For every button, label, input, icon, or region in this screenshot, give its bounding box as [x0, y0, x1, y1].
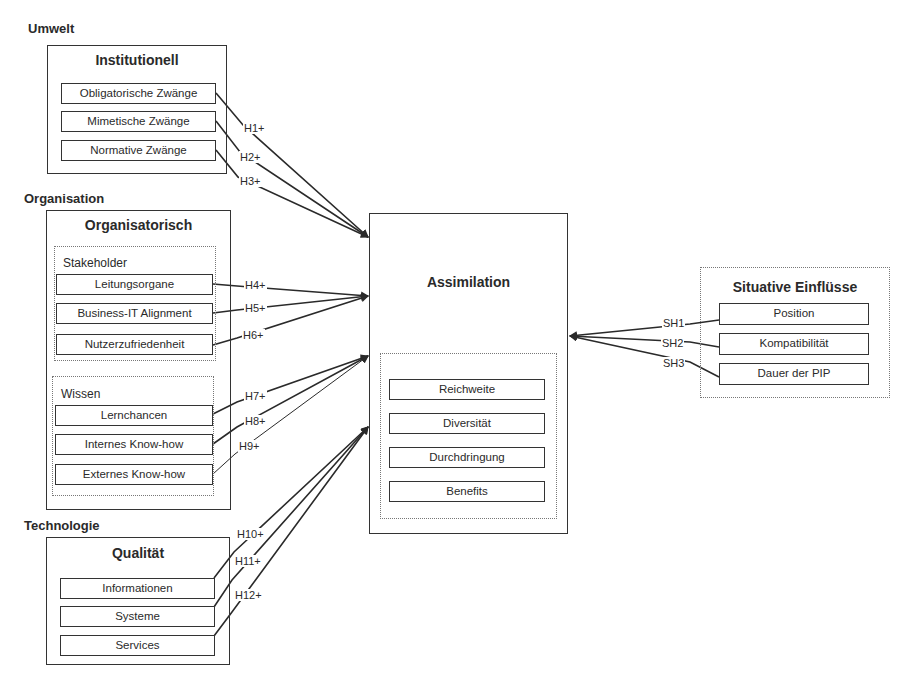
assimilation-title: Assimilation: [370, 274, 567, 290]
item-mimetische-zwaenge: Mimetische Zwänge: [61, 111, 216, 132]
arrow-h4: [213, 284, 368, 296]
item-systeme: Systeme: [60, 606, 215, 627]
item-business-it-alignment: Business-IT Alignment: [56, 303, 213, 324]
hypothesis-sh2: SH2: [661, 337, 684, 349]
hypothesis-h10: H10+: [236, 528, 265, 540]
item-leitungsorgane: Leitungsorgane: [56, 274, 213, 295]
item-diversitaet: Diversität: [389, 413, 545, 434]
item-internes-know-how: Internes Know-how: [55, 434, 213, 455]
hypothesis-h2: H2+: [239, 151, 262, 163]
hypothesis-sh1: SH1: [662, 317, 685, 329]
situative-einfluesse-title: Situative Einflüsse: [701, 279, 889, 295]
arrow-h11: [214, 427, 368, 607]
hypothesis-sh3: SH3: [662, 357, 685, 369]
section-label-umwelt: Umwelt: [28, 21, 74, 36]
item-dauer-der-pip: Dauer der PIP: [719, 363, 869, 385]
arrow-h3: [216, 150, 368, 237]
hypothesis-h4: H4+: [244, 279, 267, 291]
wissen-label: Wissen: [61, 387, 100, 401]
item-reichweite: Reichweite: [389, 379, 545, 400]
arrow-sh3: [570, 336, 719, 377]
hypothesis-h6: H6+: [242, 329, 265, 341]
hypothesis-h12: H12+: [234, 589, 263, 601]
arrow-h9: [213, 356, 368, 474]
hypothesis-h8: H8+: [244, 415, 267, 427]
item-externes-know-how: Externes Know-how: [55, 464, 213, 485]
hypothesis-h1: H1+: [243, 122, 266, 134]
organisatorisch-title: Organisatorisch: [47, 217, 230, 233]
hypothesis-h3: H3+: [239, 175, 262, 187]
arrow-sh1: [570, 320, 719, 336]
item-informationen: Informationen: [60, 578, 215, 599]
item-services: Services: [60, 635, 215, 656]
stakeholder-label: Stakeholder: [63, 256, 127, 270]
hypothesis-h5: H5+: [244, 302, 267, 314]
item-normative-zwaenge: Normative Zwänge: [61, 140, 216, 161]
section-label-technologie: Technologie: [24, 518, 100, 533]
arrow-h8: [213, 356, 368, 444]
item-durchdringung: Durchdringung: [389, 447, 545, 468]
hypothesis-h11: H11+: [234, 555, 262, 567]
item-benefits: Benefits: [389, 481, 545, 502]
arrow-h5: [213, 296, 368, 313]
item-obligatorische-zwaenge: Obligatorische Zwänge: [61, 83, 216, 104]
qualitaet-title: Qualität: [47, 545, 229, 561]
arrow-h1: [216, 93, 368, 237]
arrow-h6: [213, 296, 368, 345]
hypothesis-h9: H9+: [238, 440, 261, 452]
hypothesis-h7: H7+: [244, 390, 267, 402]
arrow-h7: [213, 356, 368, 414]
section-label-organisation: Organisation: [24, 191, 104, 206]
item-kompatibilitaet: Kompatibilität: [719, 333, 869, 355]
item-position: Position: [719, 303, 869, 325]
institutionell-title: Institutionell: [48, 52, 226, 68]
item-lernchancen: Lernchancen: [55, 405, 213, 426]
item-nutzerzufriedenheit: Nutzerzufriedenheit: [56, 334, 213, 355]
